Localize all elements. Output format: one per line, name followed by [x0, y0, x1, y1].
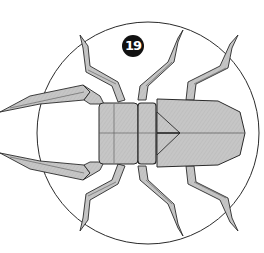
- legs-upper: [80, 30, 238, 102]
- origami-diagram: 19: [0, 0, 264, 253]
- head: [99, 103, 138, 164]
- leg-rear-upper: [186, 35, 238, 100]
- mandible-lower: [0, 153, 90, 180]
- legs-lower: [80, 164, 238, 236]
- leg-middle-upper: [138, 30, 183, 100]
- step-number-badge: 19: [122, 35, 144, 57]
- leg-rear-lower: [186, 166, 238, 231]
- mandible-upper: [0, 85, 90, 112]
- mandibles: [0, 85, 104, 180]
- leg-middle-lower: [138, 166, 183, 236]
- thorax: [138, 103, 156, 164]
